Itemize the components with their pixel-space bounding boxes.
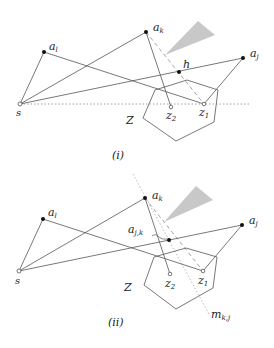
point-z1: [201, 269, 205, 273]
label-Z: Z: [125, 114, 134, 127]
label-z2: z2: [165, 109, 177, 123]
edge-s-ak: [20, 32, 146, 104]
label-z2: z2: [164, 277, 176, 291]
point-h: [177, 70, 181, 74]
label-s: s: [16, 107, 21, 118]
edge-s-al: [20, 52, 44, 104]
panel-ii: s al ak aj aj,k Z z2 z1 mk,j (ii): [15, 174, 259, 329]
label-aj: aj: [250, 47, 260, 61]
cone-region: [165, 21, 215, 55]
edge-ak-z2: [146, 32, 171, 107]
point-s: [18, 102, 22, 106]
obstacle-Z: [143, 80, 218, 141]
edge-al-z1: [43, 219, 203, 271]
label-m-kj: mk,j: [211, 308, 231, 322]
point-al: [41, 217, 45, 221]
edge-al-z1: [44, 52, 204, 104]
label-al: al: [49, 40, 58, 54]
label-z1: z1: [198, 106, 209, 120]
point-aj: [240, 223, 244, 227]
panel-i: s al ak aj h Z z2 z1 (i): [16, 21, 260, 162]
point-s: [17, 269, 21, 273]
label-Z: Z: [123, 281, 132, 294]
cone-region: [164, 186, 213, 222]
caption-ii: (ii): [108, 316, 124, 329]
point-z2: [168, 272, 172, 276]
obstacle-Z: [144, 248, 217, 309]
label-ajk: aj,k: [128, 223, 143, 237]
label-h: h: [183, 58, 190, 71]
caption-i: (i): [112, 149, 124, 162]
point-ak: [143, 196, 147, 200]
label-ak: ak: [153, 21, 164, 35]
label-aj: aj: [249, 214, 259, 228]
edge-s-ak: [19, 198, 145, 271]
point-aj: [241, 56, 245, 60]
ajk-pointer: [152, 235, 167, 240]
edge-s-al: [19, 219, 43, 271]
label-s: s: [15, 275, 20, 286]
label-ak: ak: [152, 189, 163, 203]
label-al: al: [48, 206, 57, 220]
point-ak: [144, 30, 148, 34]
point-al: [42, 50, 46, 54]
diagram-canvas: s al ak aj h Z z2 z1 (i) s al ak aj aj,k…: [0, 0, 274, 348]
point-ajk: [167, 238, 171, 242]
label-z1: z1: [197, 274, 208, 288]
